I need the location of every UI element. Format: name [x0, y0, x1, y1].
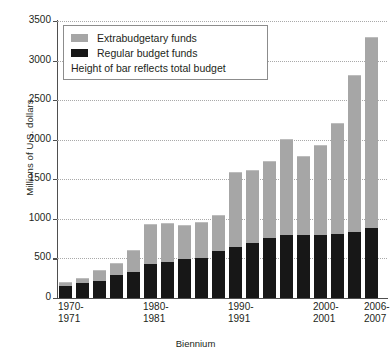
- bar-segment-regular: [161, 262, 174, 298]
- bar-segment-regular: [76, 283, 89, 298]
- y-tick-mark: [53, 219, 57, 220]
- bar-segment-regular: [314, 235, 327, 298]
- bar-1972-1973: [76, 279, 89, 298]
- y-tick-mark: [53, 179, 57, 180]
- legend-label-extrabudgetary: Extrabudgetary funds: [97, 32, 197, 44]
- y-tick-mark: [53, 100, 57, 101]
- y-tick-mark: [53, 61, 57, 62]
- bar-segment-extrabudgetary: [348, 75, 361, 231]
- bar-1996-1997: [280, 140, 293, 298]
- bar-segment-regular: [195, 258, 208, 298]
- chart-legend: Extrabudgetary funds Regular budget fund…: [63, 25, 268, 80]
- bar-segment-regular: [348, 232, 361, 298]
- bar-segment-extrabudgetary: [246, 170, 259, 242]
- bar-segment-extrabudgetary: [280, 139, 293, 236]
- y-tick-label: 1500: [7, 173, 51, 183]
- x-tick-line1: 2000-: [313, 301, 369, 313]
- bar-2004-2005: [348, 76, 361, 298]
- y-tick-label: 500: [7, 252, 51, 262]
- bar-1974-1975: [93, 271, 106, 298]
- bar-segment-extrabudgetary: [93, 270, 106, 281]
- bar-segment-regular: [365, 228, 378, 298]
- bar-1992-1993: [246, 171, 259, 298]
- y-tick-label: 2000: [7, 134, 51, 144]
- bar-1970-1971: [59, 283, 72, 298]
- bar-segment-regular: [280, 235, 293, 298]
- legend-label-regular: Regular budget funds: [97, 47, 197, 59]
- x-tick-label: 1970-1971: [58, 301, 114, 324]
- x-tick-label: 2000-2001: [313, 301, 369, 324]
- bar-1988-1989: [212, 216, 225, 298]
- x-tick-line1: 1990-: [228, 301, 284, 313]
- y-tick-label: 0: [7, 292, 51, 302]
- bar-1978-1979: [127, 251, 140, 298]
- bar-1984-1985: [178, 226, 191, 298]
- legend-note: Height of bar reflects total budget: [71, 62, 260, 74]
- x-tick-line1: 1980-: [143, 301, 199, 313]
- bar-2006-2007: [365, 38, 378, 298]
- y-tick-label: 2500: [7, 94, 51, 104]
- bar-chart: Millions of U.S. dollars 050010001500200…: [0, 0, 391, 361]
- bar-segment-extrabudgetary: [212, 215, 225, 252]
- bar-1998-1999: [297, 157, 310, 298]
- bar-1994-1995: [263, 162, 276, 298]
- x-tick-label: 2006-2007: [364, 301, 391, 324]
- y-tick-mark: [53, 21, 57, 22]
- bar-segment-extrabudgetary: [195, 222, 208, 259]
- bar-1982-1983: [161, 224, 174, 298]
- y-tick-label: 3500: [7, 15, 51, 25]
- bar-segment-extrabudgetary: [263, 161, 276, 238]
- x-tick-line2: 2007: [364, 313, 391, 325]
- bar-2000-2001: [314, 146, 327, 298]
- x-tick-line2: 2001: [313, 313, 369, 325]
- bar-segment-regular: [178, 259, 191, 298]
- bar-segment-regular: [331, 234, 344, 298]
- legend-swatch-regular-icon: [71, 49, 88, 58]
- bar-segment-extrabudgetary: [314, 145, 327, 235]
- bar-segment-regular: [93, 281, 106, 298]
- bar-segment-regular: [297, 235, 310, 298]
- legend-item-regular: Regular budget funds: [71, 46, 260, 60]
- bar-1980-1981: [144, 225, 157, 298]
- bar-segment-regular: [127, 272, 140, 298]
- bar-segment-extrabudgetary: [110, 263, 123, 275]
- bar-segment-extrabudgetary: [178, 225, 191, 259]
- bar-1986-1987: [195, 223, 208, 298]
- x-tick-label: 1990-1991: [228, 301, 284, 324]
- bar-segment-extrabudgetary: [161, 223, 174, 263]
- bar-segment-regular: [144, 264, 157, 298]
- x-tick-line2: 1981: [143, 313, 199, 325]
- bar-segment-extrabudgetary: [331, 123, 344, 234]
- x-tick-line2: 1971: [58, 313, 114, 325]
- bar-segment-extrabudgetary: [127, 250, 140, 272]
- y-tick-mark: [53, 140, 57, 141]
- bar-segment-regular: [229, 247, 242, 298]
- bar-segment-regular: [263, 238, 276, 298]
- bar-segment-extrabudgetary: [144, 224, 157, 264]
- x-tick-line1: 2006-: [364, 301, 391, 313]
- x-tick-label: 1980-1981: [143, 301, 199, 324]
- bar-segment-regular: [110, 275, 123, 298]
- bar-1976-1977: [110, 264, 123, 298]
- bar-segment-regular: [59, 286, 72, 298]
- bar-segment-extrabudgetary: [229, 172, 242, 247]
- y-tick-label: 3000: [7, 55, 51, 65]
- y-axis-title: Millions of U.S. dollars: [24, 63, 35, 233]
- bar-segment-extrabudgetary: [365, 37, 378, 228]
- y-tick-label: 1000: [7, 213, 51, 223]
- bar-1990-1991: [229, 173, 242, 298]
- bar-segment-regular: [246, 243, 259, 298]
- bar-segment-regular: [212, 251, 225, 298]
- legend-swatch-extrabudgetary-icon: [71, 34, 88, 43]
- x-tick-line2: 1991: [228, 313, 284, 325]
- bar-2002-2003: [331, 124, 344, 298]
- x-tick-line1: 1970-: [58, 301, 114, 313]
- legend-item-extrabudgetary: Extrabudgetary funds: [71, 31, 260, 45]
- x-axis-title: Biennium: [0, 338, 391, 349]
- y-tick-mark: [53, 298, 57, 299]
- bar-segment-extrabudgetary: [297, 156, 310, 235]
- y-tick-mark: [53, 258, 57, 259]
